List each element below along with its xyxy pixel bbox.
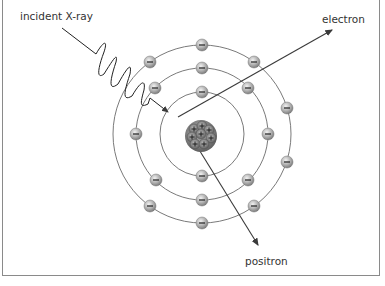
electron — [248, 200, 260, 212]
electron — [150, 174, 162, 186]
electron — [130, 128, 142, 140]
electron — [281, 102, 293, 114]
nucleus — [185, 120, 217, 152]
electron-label: electron — [322, 13, 365, 25]
electron — [196, 194, 208, 206]
positron-label: positron — [245, 255, 288, 267]
electron — [149, 82, 161, 94]
incident-xray-label: incident X-ray — [20, 10, 93, 22]
electron — [196, 86, 208, 98]
electron — [196, 39, 208, 51]
electron — [242, 174, 254, 186]
electron — [196, 62, 208, 74]
electron — [262, 128, 274, 140]
electron — [242, 82, 254, 94]
incident-xray-wave — [62, 28, 168, 112]
atom-diagram — [0, 0, 385, 286]
electron — [144, 56, 156, 68]
electron — [248, 56, 260, 68]
electron — [196, 217, 208, 229]
electron — [196, 170, 208, 182]
electron — [144, 200, 156, 212]
electron — [281, 156, 293, 168]
